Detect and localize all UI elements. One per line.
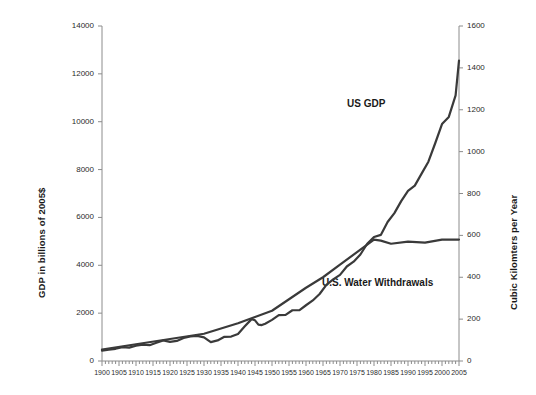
y-tick-label-right: 1000 [467, 147, 511, 156]
chart-figure: GDP in billions of 2005$ Cubic Kilomters… [0, 0, 536, 395]
y-tick-label-right: 600 [467, 230, 511, 239]
x-tick-label: 2005 [447, 369, 471, 376]
y-tick-label-right: 800 [467, 189, 511, 198]
series-line-us-gdp [102, 61, 459, 351]
series-line-u-s-water-withdrawals [102, 240, 459, 350]
y-tick-label-right: 200 [467, 314, 511, 323]
y-tick-label-left: 2000 [38, 308, 94, 317]
y-tick-label-right: 0 [467, 356, 511, 365]
y-tick-label-right: 1200 [467, 105, 511, 114]
y-tick-label-right: 1400 [467, 63, 511, 72]
y-tick-label-right: 400 [467, 272, 511, 281]
plot-area [0, 0, 536, 395]
series-group [102, 61, 459, 351]
y-tick-label-left: 14000 [38, 21, 94, 30]
y-tick-label-left: 10000 [38, 117, 94, 126]
y-tick-label-right: 1600 [467, 21, 511, 30]
y-tick-label-left: 0 [38, 356, 94, 365]
y-tick-label-left: 6000 [38, 212, 94, 221]
y-tick-label-left: 12000 [38, 69, 94, 78]
y-tick-label-left: 8000 [38, 165, 94, 174]
y-tick-label-left: 4000 [38, 260, 94, 269]
